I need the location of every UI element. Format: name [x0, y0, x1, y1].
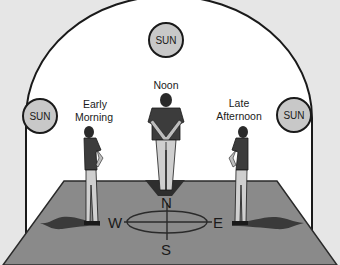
sun-shadow-diagram: N S W E SUN SUN SUN Early Morning Noon L…	[0, 0, 340, 265]
sun-left: SUN	[23, 99, 57, 133]
sun-top: SUN	[149, 23, 183, 57]
compass-west-label: W	[108, 214, 123, 231]
sun-right: SUN	[277, 98, 311, 132]
compass-south-label: S	[161, 241, 171, 258]
sun-top-label: SUN	[155, 35, 176, 46]
label-afternoon: Afternoon	[216, 110, 262, 122]
compass-north-label: N	[161, 194, 172, 211]
sun-right-label: SUN	[283, 110, 304, 121]
label-morning: Morning	[75, 111, 113, 123]
compass-east-label: E	[213, 214, 223, 231]
sun-left-label: SUN	[29, 111, 50, 122]
label-noon: Noon	[153, 79, 178, 91]
label-late: Late	[229, 97, 250, 109]
label-early: Early	[83, 98, 108, 110]
